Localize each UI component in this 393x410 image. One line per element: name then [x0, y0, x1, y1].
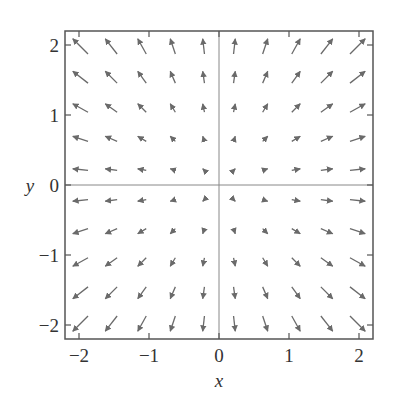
vector-arrow — [73, 316, 88, 331]
vector-arrow — [292, 200, 300, 202]
vector-arrow — [203, 258, 205, 266]
vector-arrow — [321, 258, 333, 266]
vector-arrow — [73, 287, 88, 299]
vector-arrow — [321, 104, 333, 112]
x-tick-label: −2 — [69, 345, 89, 366]
vector-arrow — [105, 39, 117, 54]
vector-arrow — [350, 200, 365, 202]
vector-arrow — [203, 229, 205, 234]
vector-arrow — [292, 104, 300, 112]
x-axis-label: x — [214, 370, 224, 391]
vector-arrow — [292, 287, 300, 299]
vector-arrow — [234, 71, 236, 83]
vector-arrow — [203, 104, 205, 112]
vector-arrow — [263, 258, 268, 266]
vector-arrow — [203, 200, 205, 202]
vector-arrow — [263, 287, 268, 299]
vector-arrow — [292, 169, 300, 171]
vector-arrow — [203, 39, 205, 54]
vector-arrow — [292, 71, 300, 83]
vector-arrow — [105, 169, 117, 171]
vector-arrow — [263, 200, 268, 202]
vector-arrow — [105, 200, 117, 202]
vector-arrow — [350, 71, 365, 83]
x-tick-label: 2 — [354, 345, 364, 366]
vector-arrow — [321, 229, 333, 234]
vector-arrow — [105, 104, 117, 112]
vector-arrow — [234, 258, 236, 266]
vector-arrow — [105, 71, 117, 83]
vector-arrow — [350, 169, 365, 171]
vector-arrow — [73, 136, 88, 141]
vector-arrow — [292, 229, 300, 234]
vector-arrow — [105, 258, 117, 266]
vector-arrow — [203, 71, 205, 83]
vector-arrow — [138, 136, 146, 141]
vector-arrow — [138, 39, 146, 54]
vector-arrow — [105, 287, 117, 299]
vector-arrow — [321, 316, 333, 331]
vector-arrow — [292, 258, 300, 266]
vector-arrow — [263, 71, 268, 83]
vector-arrow — [138, 71, 146, 83]
vector-arrow — [203, 287, 205, 299]
vector-arrow — [73, 39, 88, 54]
vector-arrow — [263, 169, 268, 171]
y-tick-label: −1 — [39, 245, 59, 266]
vector-arrow — [263, 136, 268, 141]
vector-arrow — [170, 39, 175, 54]
y-axis-label: y — [24, 175, 35, 196]
vector-arrow — [73, 258, 88, 266]
vector-arrow — [263, 229, 268, 234]
vector-arrow — [73, 169, 88, 171]
vector-arrow — [350, 258, 365, 266]
vector-arrow — [170, 200, 175, 202]
vector-arrow — [170, 136, 175, 141]
vector-arrow — [170, 104, 175, 112]
vector-arrow — [138, 169, 146, 171]
vector-arrow — [350, 39, 365, 54]
x-tick-label: −1 — [139, 345, 159, 366]
vector-arrow — [170, 229, 175, 234]
vector-arrow — [105, 229, 117, 234]
vector-arrow — [263, 39, 268, 54]
vector-arrow — [170, 258, 175, 266]
vector-arrow — [292, 136, 300, 141]
y-tick-labels: −2−1012 — [39, 35, 59, 336]
vector-arrow — [203, 169, 205, 171]
vector-arrow — [321, 71, 333, 83]
vector-arrow — [350, 287, 365, 299]
y-tick-label: 2 — [50, 35, 60, 56]
vector-arrow — [321, 39, 333, 54]
vector-arrow — [263, 316, 268, 331]
vector-arrow — [234, 136, 236, 141]
vector-arrow — [321, 136, 333, 141]
x-tick-label: 1 — [284, 345, 294, 366]
vector-arrow — [73, 104, 88, 112]
vector-arrow — [138, 258, 146, 266]
vector-arrow — [170, 316, 175, 331]
vector-arrow — [321, 169, 333, 171]
vector-arrow — [203, 316, 205, 331]
vector-arrow — [234, 104, 236, 112]
vector-arrow — [73, 229, 88, 234]
vector-arrow — [138, 316, 146, 331]
vector-arrow — [138, 104, 146, 112]
vector-arrow — [234, 287, 236, 299]
vector-arrow — [350, 316, 365, 331]
vector-arrow — [138, 200, 146, 202]
vector-arrow — [292, 316, 300, 331]
vector-arrow — [263, 104, 268, 112]
vector-arrow — [73, 200, 88, 202]
x-tick-label: 0 — [214, 345, 224, 366]
vector-arrow — [234, 316, 236, 331]
vector-arrow — [234, 229, 236, 234]
vector-arrow — [105, 316, 117, 331]
y-tick-label: −2 — [39, 315, 59, 336]
x-tick-labels: −2−1012 — [69, 345, 364, 366]
vector-arrow — [321, 287, 333, 299]
vector-arrow — [234, 200, 236, 202]
vector-arrow — [350, 104, 365, 112]
vector-arrow — [170, 169, 175, 171]
y-tick-label: 1 — [50, 105, 60, 126]
